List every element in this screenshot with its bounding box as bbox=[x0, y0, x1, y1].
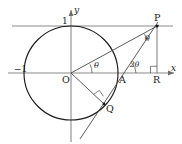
right-angle-marker-r bbox=[151, 66, 158, 73]
y-axis-arrow bbox=[69, 10, 74, 16]
y-axis-label: y bbox=[74, 6, 79, 15]
point-label-a: A bbox=[119, 75, 126, 85]
y-tick-label-1: 1 bbox=[62, 17, 68, 26]
point-dot-p bbox=[156, 25, 159, 28]
point-dot-q bbox=[103, 103, 106, 106]
geometry-figure: y 1 −1 x O A Q P R θ θ 2θ bbox=[0, 0, 182, 144]
ray-op bbox=[71, 25, 159, 73]
point-label-p: P bbox=[154, 13, 160, 23]
point-label-o: O bbox=[62, 75, 70, 85]
x-tick-label-minus-1: −1 bbox=[14, 65, 27, 74]
angle-label-p: θ bbox=[145, 35, 150, 43]
x-axis-label: x bbox=[171, 64, 176, 73]
point-label-q: Q bbox=[106, 104, 114, 114]
angle-label-a: 2θ bbox=[130, 61, 139, 69]
point-label-r: R bbox=[153, 75, 160, 85]
angle-label-origin: θ bbox=[94, 62, 99, 70]
angle-arc-origin bbox=[90, 64, 92, 73]
segment-oq bbox=[71, 73, 104, 104]
